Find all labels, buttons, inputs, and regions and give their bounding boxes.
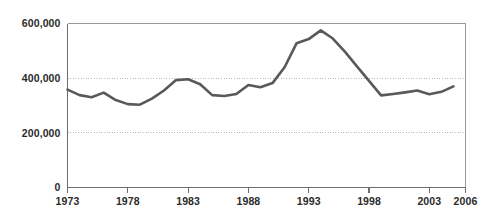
x-tick-label-1978: 1978 xyxy=(116,195,140,207)
x-tick-label-2003: 2003 xyxy=(417,195,441,207)
series-line-0 xyxy=(68,30,454,104)
x-axis-tick-labels: 19731978198319881993199820032006 xyxy=(56,195,478,207)
y-tick-label-400000: 400,000 xyxy=(22,72,61,84)
y-tick-label-0: 0 xyxy=(55,181,61,193)
axes xyxy=(68,24,466,188)
chart-canvas: 0200,000400,000600,000 19731978198319881… xyxy=(0,0,497,223)
y-axis-tick-labels: 0200,000400,000600,000 xyxy=(22,17,61,193)
x-tick-label-1998: 1998 xyxy=(357,195,381,207)
x-tick-label-1993: 1993 xyxy=(297,195,321,207)
gridlines xyxy=(68,24,466,133)
x-tick-label-2006: 2006 xyxy=(454,195,478,207)
y-tick-label-200000: 200,000 xyxy=(22,127,61,139)
x-tick-label-1973: 1973 xyxy=(56,195,80,207)
plot-frame xyxy=(68,24,466,188)
line-chart: 0200,000400,000600,000 19731978198319881… xyxy=(0,0,497,223)
data-series xyxy=(68,30,454,104)
x-tick-label-1988: 1988 xyxy=(237,195,261,207)
tick-marks xyxy=(68,188,466,193)
x-tick-label-1983: 1983 xyxy=(176,195,200,207)
y-tick-label-600000: 600,000 xyxy=(22,17,61,29)
